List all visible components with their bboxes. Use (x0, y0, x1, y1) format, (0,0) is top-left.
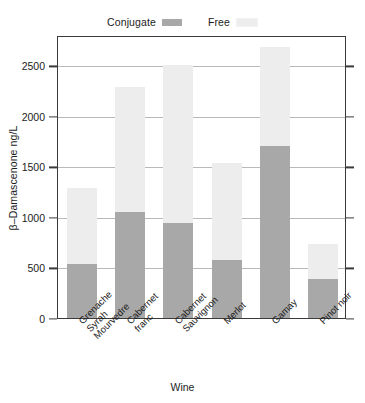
legend-label-conjugate: Conjugate (107, 16, 156, 28)
y-tick-mark-right (346, 167, 354, 168)
legend-entry-free: Free (208, 16, 258, 28)
y-tick-mark-right (346, 268, 354, 269)
bar-group (308, 36, 338, 318)
bar-group (115, 36, 145, 318)
y-tick-mark (49, 116, 57, 117)
legend-entry-conjugate: Conjugate (107, 16, 182, 28)
gridline (58, 268, 345, 269)
bar-segment-free (212, 163, 242, 260)
y-tick-mark-right (346, 116, 354, 117)
gridline (58, 167, 345, 168)
y-tick-mark (49, 217, 57, 218)
y-axis: 05001000150020002500 (0, 36, 57, 319)
plot-area (57, 36, 346, 319)
y-tick-label: 2000 (22, 111, 45, 123)
bar-group (163, 36, 193, 318)
bar-segment-free (163, 65, 193, 223)
y-tick-mark (49, 268, 57, 269)
y-tick-mark-right (346, 66, 354, 67)
y-tick-label: 1000 (22, 212, 45, 224)
bar-segment-free (308, 244, 338, 279)
gridline (58, 117, 345, 118)
legend-swatch-free (236, 18, 258, 27)
bar-segment-free (115, 87, 145, 212)
chart-figure: Conjugate Free β–Damascenone ng/L 050010… (0, 0, 365, 403)
gridline (58, 218, 345, 219)
bar-segment-free (260, 47, 290, 146)
y-tick-mark (49, 167, 57, 168)
legend-swatch-conjugate (162, 19, 182, 26)
bar-group (260, 36, 290, 318)
y-tick-label: 1500 (22, 161, 45, 173)
gridline (58, 66, 345, 67)
bar-group (67, 36, 97, 318)
legend-label-free: Free (208, 16, 230, 28)
chart-legend: Conjugate Free (0, 13, 365, 31)
y-axis-right-ticks (346, 36, 356, 319)
bar-group (212, 36, 242, 318)
y-tick-label: 500 (27, 262, 45, 274)
y-tick-mark (49, 66, 57, 67)
bar-segment-conjugate (260, 146, 290, 318)
y-tick-mark-right (346, 217, 354, 218)
bar-segment-free (67, 188, 97, 265)
y-tick-label: 2500 (22, 60, 45, 72)
x-axis-title: Wine (0, 381, 365, 393)
